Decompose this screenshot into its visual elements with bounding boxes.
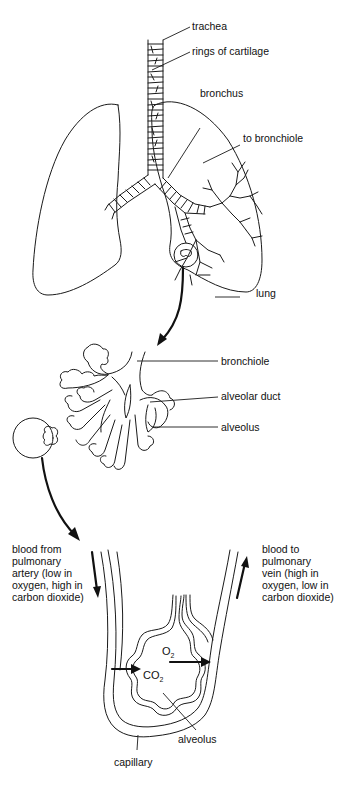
- artery-line-5: carbon dioxide): [12, 591, 84, 603]
- label-to-bronchiole: to bronchiole: [243, 132, 303, 144]
- up-flow-arrow: [237, 563, 245, 598]
- label-alveolus-bottom: alveolus: [178, 733, 217, 745]
- down-flow-arrow: [92, 552, 97, 590]
- label-co2: CO2: [143, 669, 164, 683]
- label-o2: O2: [162, 645, 175, 659]
- vein-label: blood to pulmonary vein (high in oxygen,…: [262, 543, 334, 603]
- lungs-section: trachea rings of cartilage bronchus to b…: [33, 20, 303, 346]
- vein-line-2: pulmonary: [262, 555, 312, 567]
- label-bronchiole: bronchiole: [221, 355, 270, 367]
- vein-line-5: carbon dioxide): [262, 591, 334, 603]
- arrow-to-bronchiole: [162, 268, 183, 340]
- artery-line-2: pulmonary: [12, 555, 62, 567]
- label-alveolar-duct: alveolar duct: [221, 390, 281, 402]
- right-bronchus: [155, 178, 210, 243]
- bronchiole-section: bronchiole alveolar duct alveolus: [13, 344, 281, 541]
- gas-exchange-section: blood from pulmonary artery (low in oxyg…: [12, 543, 334, 768]
- artery-label: blood from pulmonary artery (low in oxyg…: [12, 543, 84, 603]
- arrowhead: [241, 556, 249, 568]
- label-capillary: capillary: [114, 756, 153, 768]
- left-lung: [33, 104, 121, 295]
- label-trachea: trachea: [192, 20, 227, 32]
- label-alveolus-mid: alveolus: [221, 421, 260, 433]
- vein-line-1: blood to: [262, 543, 300, 555]
- respiratory-diagram: trachea rings of cartilage bronchus to b…: [0, 0, 351, 786]
- arrow-to-capillary: [42, 458, 75, 535]
- label-rings-of-cartilage: rings of cartilage: [192, 45, 269, 57]
- capillary: [101, 550, 238, 737]
- artery-line-1: blood from: [12, 543, 62, 555]
- alveolar-clusters: [60, 344, 175, 469]
- label-lung: lung: [256, 287, 276, 299]
- left-bronchus: [105, 175, 155, 219]
- trachea: [148, 40, 163, 178]
- vein-line-3: vein (high in: [262, 567, 319, 579]
- artery-line-3: artery (low in: [12, 567, 72, 579]
- vein-line-4: oxygen, low in: [262, 579, 329, 591]
- detail-circle-alveolus: [13, 418, 53, 458]
- artery-line-4: oxygen, high in: [12, 579, 83, 591]
- label-bronchus: bronchus: [200, 87, 243, 99]
- arrowhead: [131, 664, 141, 674]
- arrowhead: [93, 586, 101, 598]
